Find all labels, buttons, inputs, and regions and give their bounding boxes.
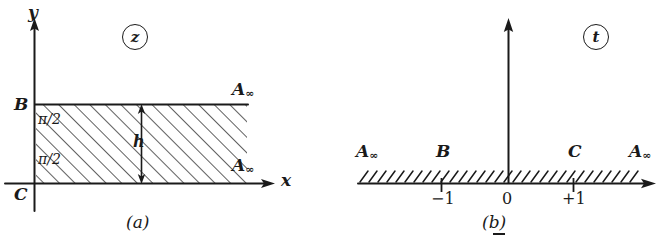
strip-height-label: h <box>133 134 145 150</box>
point-label-b-t-plane: B <box>436 143 450 160</box>
tick-label-plus-one: +1 <box>562 191 586 207</box>
a-infinity-right-subscript: ∞ <box>642 149 651 162</box>
angle-label-lower: π/2 <box>38 152 61 166</box>
caption-panel-a: (a) <box>126 214 149 231</box>
y-axis-label: y <box>28 4 38 21</box>
a-infinity-bottom-z-plane: A∞ <box>232 157 254 174</box>
a-infinity-top-subscript: ∞ <box>245 87 254 100</box>
a-infinity-top-letter: A <box>232 79 245 99</box>
point-label-b-z-plane: B <box>14 96 28 113</box>
a-infinity-left-letter: A <box>356 141 369 161</box>
point-label-c-t-plane: C <box>568 143 582 160</box>
angle-label-upper: π/2 <box>38 112 61 126</box>
caption-panel-b: (b) <box>482 214 506 231</box>
plane-tag-t: t <box>583 24 609 50</box>
a-infinity-right-letter: A <box>629 141 642 161</box>
caption-panel-b-underline <box>493 233 505 235</box>
x-axis-label: x <box>281 172 291 189</box>
plane-tag-z: z <box>122 24 148 50</box>
a-infinity-left-t-plane: A∞ <box>356 143 378 160</box>
conformal-mapping-figure: y x B C A∞ A∞ π/2 π/2 h z (a) A∞ B C A∞ … <box>0 0 672 244</box>
point-label-c-z-plane: C <box>14 186 28 203</box>
a-infinity-bottom-subscript: ∞ <box>245 163 254 176</box>
tick-label-zero: 0 <box>502 191 512 207</box>
a-infinity-left-subscript: ∞ <box>369 149 378 162</box>
tick-label-minus-one: −1 <box>431 191 455 207</box>
panel-b-linework <box>358 18 656 192</box>
a-infinity-top-z-plane: A∞ <box>232 81 254 98</box>
real-axis-hatching <box>360 171 638 182</box>
a-infinity-bottom-letter: A <box>232 155 245 175</box>
a-infinity-right-t-plane: A∞ <box>629 143 651 160</box>
